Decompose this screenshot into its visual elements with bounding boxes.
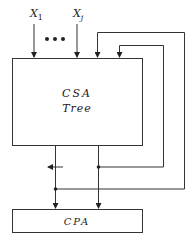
- junction-dot-carry: [97, 165, 101, 169]
- junction-dot-sum: [54, 187, 58, 191]
- input-label-xj: Xj: [72, 7, 84, 22]
- svg-text:Xj: Xj: [72, 7, 84, 22]
- tree-label: Tree: [62, 102, 92, 115]
- csa-cpa-diagram: X1 Xj CSA Tree CPA: [0, 0, 193, 241]
- input-label-x1: X1: [29, 7, 43, 22]
- csa-label: CSA: [62, 87, 92, 100]
- ellipsis-dots: [45, 37, 65, 41]
- cpa-label: CPA: [64, 216, 91, 227]
- svg-text:X1: X1: [29, 7, 43, 22]
